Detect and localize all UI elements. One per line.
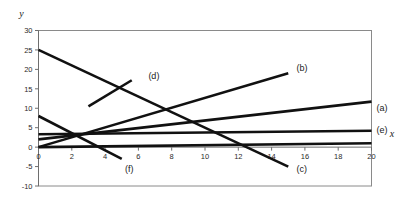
y-tick-label: 10 bbox=[24, 104, 32, 113]
x-tick-label: 10 bbox=[201, 152, 209, 161]
x-tick-label: 8 bbox=[170, 152, 174, 161]
line-chart: -10-5051015202530 02468101214161820 (a)(… bbox=[0, 0, 415, 203]
chart-container: -10-5051015202530 02468101214161820 (a)(… bbox=[0, 0, 415, 203]
series-label-a: (a) bbox=[376, 103, 387, 113]
x-tick-label: 12 bbox=[234, 152, 242, 161]
y-tick-label: -10 bbox=[22, 182, 33, 191]
y-tick-label: 20 bbox=[24, 65, 32, 74]
x-tick-label: 6 bbox=[136, 152, 140, 161]
x-tick-label: 16 bbox=[301, 152, 309, 161]
x-tick-label: 0 bbox=[36, 152, 40, 161]
y-tick-label: 15 bbox=[24, 85, 32, 94]
x-tick-label: 18 bbox=[334, 152, 342, 161]
y-tick-label: 30 bbox=[24, 26, 32, 35]
x-tick-label: 4 bbox=[103, 152, 107, 161]
x-axis-title: x bbox=[389, 128, 395, 139]
y-tick-label: -5 bbox=[26, 162, 33, 171]
series-label-f: (f) bbox=[125, 164, 134, 174]
x-tick-label: 20 bbox=[367, 152, 375, 161]
y-axis-title: y bbox=[18, 8, 24, 19]
x-tick-label: 2 bbox=[70, 152, 74, 161]
y-tick-label: 5 bbox=[28, 123, 32, 132]
series-label-e: (e) bbox=[376, 125, 387, 135]
series-label-d: (d) bbox=[148, 71, 159, 81]
series-label-c: (c) bbox=[297, 164, 308, 174]
y-tick-label: 25 bbox=[24, 46, 32, 55]
y-tick-label: 0 bbox=[28, 143, 32, 152]
series-label-b: (b) bbox=[297, 63, 308, 73]
